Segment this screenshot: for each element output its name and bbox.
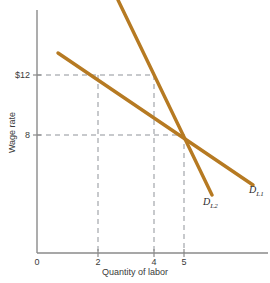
y-axis-title: Wage rate	[8, 98, 17, 168]
curve-label-dl2: DL2	[203, 197, 218, 210]
chart-plot-area	[0, 0, 270, 283]
x-tick-label-0: 0	[34, 258, 39, 267]
x-axis-title: Quantity of labor	[0, 268, 270, 277]
x-tick-label-5: 5	[181, 258, 186, 267]
x-tick-label-4: 4	[151, 258, 156, 267]
x-tick-label-2: 2	[95, 258, 100, 267]
curve-label-dl2-sub: L2	[210, 202, 217, 210]
y-tick-label-12: $12	[2, 71, 30, 80]
demand-curve-dl1	[58, 53, 253, 185]
curve-label-dl1: DL1	[249, 185, 264, 198]
demand-curve-dl2	[118, 0, 212, 195]
labor-demand-chart: $12 8 0 2 4 5 Quantity of labor Wage rat…	[0, 0, 270, 283]
curve-label-dl1-sub: L1	[256, 190, 263, 198]
